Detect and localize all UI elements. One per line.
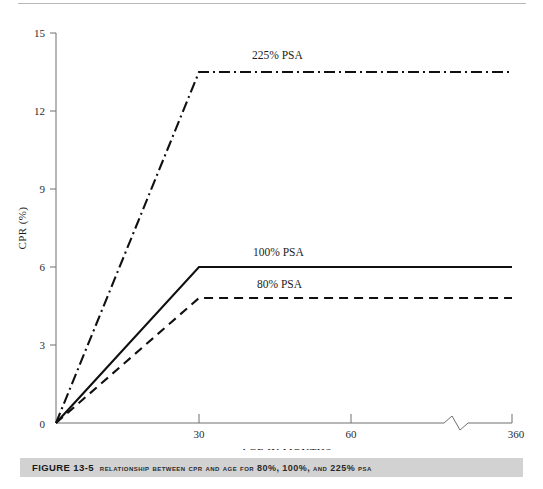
- y-tick-label-9: 9: [40, 183, 46, 195]
- series-label-100-psa: 100% PSA: [253, 246, 304, 258]
- chart-plot-area: 15 12 9 6 3 0 30 60 360 AGE IN MONTHS CP…: [0, 0, 543, 450]
- figure-caption: FIGURE 13-5 Relationship between CPR and…: [20, 462, 372, 473]
- chart-svg: 15 12 9 6 3 0 30 60 360 AGE IN MONTHS CP…: [0, 0, 543, 450]
- y-tick-label-6: 6: [40, 261, 46, 273]
- x-axis-title: AGE IN MONTHS: [240, 446, 331, 450]
- figure-number: FIGURE 13-5: [32, 462, 94, 473]
- y-tick-label-3: 3: [40, 339, 46, 351]
- x-axis-line-with-break: [56, 416, 512, 430]
- y-tick-label-0: 0: [40, 418, 46, 430]
- series-label-225-psa: 225% PSA: [252, 49, 303, 61]
- figure-container: 15 12 9 6 3 0 30 60 360 AGE IN MONTHS CP…: [0, 0, 543, 489]
- series-line-80-psa: [56, 298, 512, 423]
- x-tick-label-30: 30: [194, 428, 206, 440]
- y-tick-label-12: 12: [34, 105, 45, 117]
- y-axis-title: CPR (%): [16, 207, 29, 250]
- series-label-80-psa: 80% PSA: [257, 278, 303, 290]
- x-tick-label-360: 360: [508, 428, 525, 440]
- series-line-100-psa: [56, 267, 512, 423]
- figure-caption-text: Relationship between CPR and Age for 80%…: [100, 463, 372, 473]
- figure-caption-bar: FIGURE 13-5 Relationship between CPR and…: [20, 458, 523, 477]
- y-tick-label-15: 15: [34, 27, 46, 39]
- x-tick-label-60: 60: [346, 428, 358, 440]
